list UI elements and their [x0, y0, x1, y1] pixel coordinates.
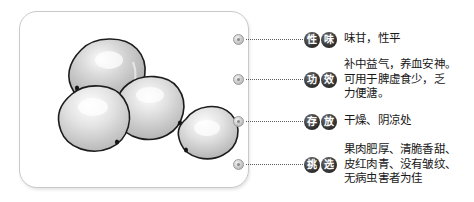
connector-node-icon	[233, 159, 244, 170]
badge-group-tiaoxuan: 挑 选	[304, 156, 337, 173]
fruit-shape-3	[58, 86, 129, 151]
badge-char: 挑	[304, 157, 320, 173]
badge-group-xingwei: 性 味	[304, 31, 337, 48]
info-row-gongxiao: 功 效 补中益气，养血安神。 可用于脾虚食少，乏 力便溏。	[304, 57, 456, 101]
connector-node-icon	[233, 116, 244, 127]
dotted-leader	[246, 164, 303, 165]
info-row-text: 味甘，性平	[344, 31, 400, 46]
dotted-leader	[246, 39, 303, 40]
badge-char: 效	[321, 72, 337, 88]
badge-group-cunfang: 存 放	[304, 113, 337, 130]
info-row-text: 补中益气，养血安神。 可用于脾虚食少，乏 力便溏。	[344, 57, 456, 101]
connector-node-icon	[233, 34, 244, 45]
info-row-text: 果肉肥厚、清脆香甜、 皮红肉青、没有皱纹、 无病虫害者为佳	[344, 142, 456, 186]
badge-group-gongxiao: 功 效	[304, 71, 337, 88]
connector-line-gongxiao	[233, 73, 303, 85]
connector-node-icon	[233, 74, 244, 85]
jujube-fruit-illustration	[20, 12, 250, 189]
info-row-xingwei: 性 味 味甘，性平	[304, 31, 400, 48]
connector-line-tiaoxuan	[233, 158, 303, 170]
badge-char: 性	[304, 32, 320, 48]
connector-line-cunfang	[233, 115, 303, 127]
illustration-card	[19, 11, 249, 188]
connector-line-xingwei	[233, 33, 303, 45]
info-row-cunfang: 存 放 干燥、阴凉处	[304, 113, 411, 130]
badge-char: 放	[321, 114, 337, 130]
badge-char: 味	[321, 32, 337, 48]
dotted-leader	[246, 79, 303, 80]
dotted-leader	[246, 121, 303, 122]
fruit-shape-4	[178, 107, 238, 159]
badge-char: 存	[304, 114, 320, 130]
badge-char: 选	[321, 157, 337, 173]
badge-char: 功	[304, 72, 320, 88]
info-row-tiaoxuan: 挑 选 果肉肥厚、清脆香甜、 皮红肉青、没有皱纹、 无病虫害者为佳	[304, 142, 456, 186]
info-row-text: 干燥、阴凉处	[344, 113, 411, 128]
